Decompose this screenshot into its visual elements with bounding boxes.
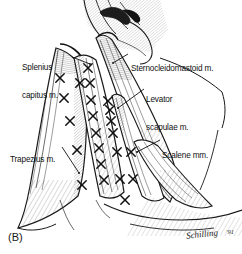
signature-year: '91: [226, 228, 234, 235]
label-scalene-line1: Scalene mm.: [162, 151, 208, 160]
label-levator-scapulae-line1: Levator: [146, 95, 189, 104]
anatomical-figure: Splenius capitus m. Sternocleidomastoid …: [0, 0, 242, 254]
label-splenius-capitus: Splenius capitus m.: [22, 44, 58, 119]
neck-muscle-illustration: [0, 0, 242, 254]
label-scalene: Scalene mm.: [162, 132, 208, 179]
label-trapezius-line1: Trapezius m.: [10, 155, 55, 164]
label-sternocleidomastoid-line1: Sternocleidomastoid m.: [131, 64, 213, 73]
label-trapezius: Trapezius m.: [10, 136, 55, 183]
figure-caption: (B): [8, 231, 23, 243]
label-splenius-capitus-line1: Splenius: [22, 63, 58, 72]
label-splenius-capitus-line2: capitus m.: [22, 91, 58, 100]
